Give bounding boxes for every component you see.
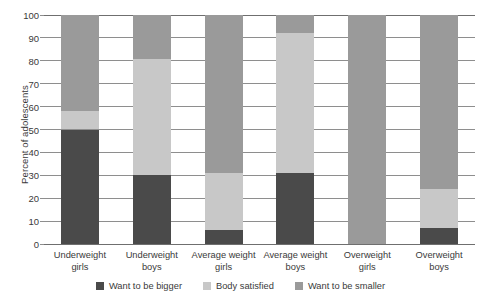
y-tick-mark-80 — [40, 60, 44, 61]
x-axis-label-line-2: girls — [42, 262, 118, 274]
bar-segment-body-satisfied — [205, 173, 243, 230]
bar-segment-body-satisfied — [133, 59, 171, 176]
bar-segment-want-to-be-bigger — [61, 130, 99, 245]
x-axis-label-line-1: Average weight — [186, 250, 262, 262]
bar-segment-want-to-be-smaller — [133, 15, 171, 59]
x-axis-label-average-weight-boys: Average weightboys — [257, 250, 333, 273]
gridline-60 — [44, 106, 475, 107]
y-tick-mark-10 — [40, 221, 44, 222]
gridline-30 — [44, 175, 475, 176]
bar-segment-want-to-be-smaller — [61, 15, 99, 111]
y-tick-label-80: 80 — [28, 55, 39, 66]
y-tick-label-60: 60 — [28, 101, 39, 112]
y-tick-label-70: 70 — [28, 78, 39, 89]
bar-segment-want-to-be-smaller — [276, 15, 314, 33]
bar-underweight-boys — [133, 15, 171, 244]
x-axis-label-line-1: Average weight — [257, 250, 333, 262]
y-tick-mark-60 — [40, 106, 44, 107]
bar-segment-want-to-be-bigger — [276, 173, 314, 244]
y-tick-label-90: 90 — [28, 32, 39, 43]
y-tick-label-50: 50 — [28, 124, 39, 135]
gridline-20 — [44, 198, 475, 199]
bar-segment-want-to-be-smaller — [348, 15, 386, 244]
x-axis-label-overweight-boys: Overweightboys — [401, 250, 477, 273]
x-axis-label-overweight-girls: Overweightgirls — [329, 250, 405, 273]
gridline-70 — [44, 83, 475, 84]
legend-swatch-icon — [96, 282, 104, 290]
gridline-100 — [44, 15, 475, 16]
y-tick-mark-50 — [40, 129, 44, 130]
bar-segment-want-to-be-smaller — [205, 15, 243, 173]
bar-segment-body-satisfied — [420, 189, 458, 228]
gridline-50 — [44, 129, 475, 130]
y-tick-label-30: 30 — [28, 170, 39, 181]
bar-segment-body-satisfied — [61, 111, 99, 129]
y-tick-label-10: 10 — [28, 216, 39, 227]
bar-overweight-girls — [348, 15, 386, 244]
legend-swatch-icon — [295, 282, 303, 290]
x-axis-label-line-2: boys — [114, 262, 190, 274]
bar-segment-want-to-be-smaller — [420, 15, 458, 189]
y-tick-mark-90 — [40, 37, 44, 38]
y-tick-label-0: 0 — [34, 239, 39, 250]
x-axis-label-line-2: boys — [401, 262, 477, 274]
bar-segment-want-to-be-bigger — [133, 175, 171, 244]
bar-average-weight-boys — [276, 15, 314, 244]
y-tick-mark-20 — [40, 198, 44, 199]
y-tick-mark-0 — [40, 244, 44, 245]
y-tick-mark-100 — [40, 15, 44, 16]
legend-label: Want to be smaller — [308, 281, 385, 291]
plot-area: 0102030405060708090100 — [44, 15, 475, 244]
bar-underweight-girls — [61, 15, 99, 244]
bar-overweight-boys — [420, 15, 458, 244]
legend-item-body-satisfied: Body satisfied — [203, 281, 274, 291]
legend-item-want-to-be-bigger: Want to be bigger — [96, 281, 182, 291]
y-tick-label-100: 100 — [23, 10, 39, 21]
legend-item-want-to-be-smaller: Want to be smaller — [295, 281, 385, 291]
bar-segment-want-to-be-bigger — [420, 228, 458, 244]
x-axis-label-underweight-girls: Underweightgirls — [42, 250, 118, 273]
x-axis-label-line-1: Underweight — [42, 250, 118, 262]
y-tick-mark-70 — [40, 83, 44, 84]
legend-label: Body satisfied — [216, 281, 274, 291]
gridline-90 — [44, 37, 475, 38]
bar-segment-want-to-be-bigger — [205, 230, 243, 244]
x-axis-label-line-2: girls — [186, 262, 262, 274]
x-axis-label-line-1: Underweight — [114, 250, 190, 262]
y-tick-mark-40 — [40, 152, 44, 153]
bar-segment-body-satisfied — [276, 33, 314, 173]
gridline-80 — [44, 60, 475, 61]
legend-swatch-icon — [203, 282, 211, 290]
legend-label: Want to be bigger — [109, 281, 182, 291]
gridline-40 — [44, 152, 475, 153]
chart-legend: Want to be biggerBody satisfiedWant to b… — [0, 281, 481, 291]
stacked-bar-chart: Percent of adolescents 01020304050607080… — [0, 0, 481, 298]
x-axis-label-line-2: girls — [329, 262, 405, 274]
gridline-0 — [44, 244, 475, 245]
y-tick-mark-30 — [40, 175, 44, 176]
x-axis-label-underweight-boys: Underweightboys — [114, 250, 190, 273]
x-axis-label-line-1: Overweight — [401, 250, 477, 262]
x-axis-label-average-weight-girls: Average weightgirls — [186, 250, 262, 273]
bar-average-weight-girls — [205, 15, 243, 244]
x-axis-label-line-2: boys — [257, 262, 333, 274]
gridline-10 — [44, 221, 475, 222]
y-tick-label-40: 40 — [28, 147, 39, 158]
x-axis-label-line-1: Overweight — [329, 250, 405, 262]
y-tick-label-20: 20 — [28, 193, 39, 204]
